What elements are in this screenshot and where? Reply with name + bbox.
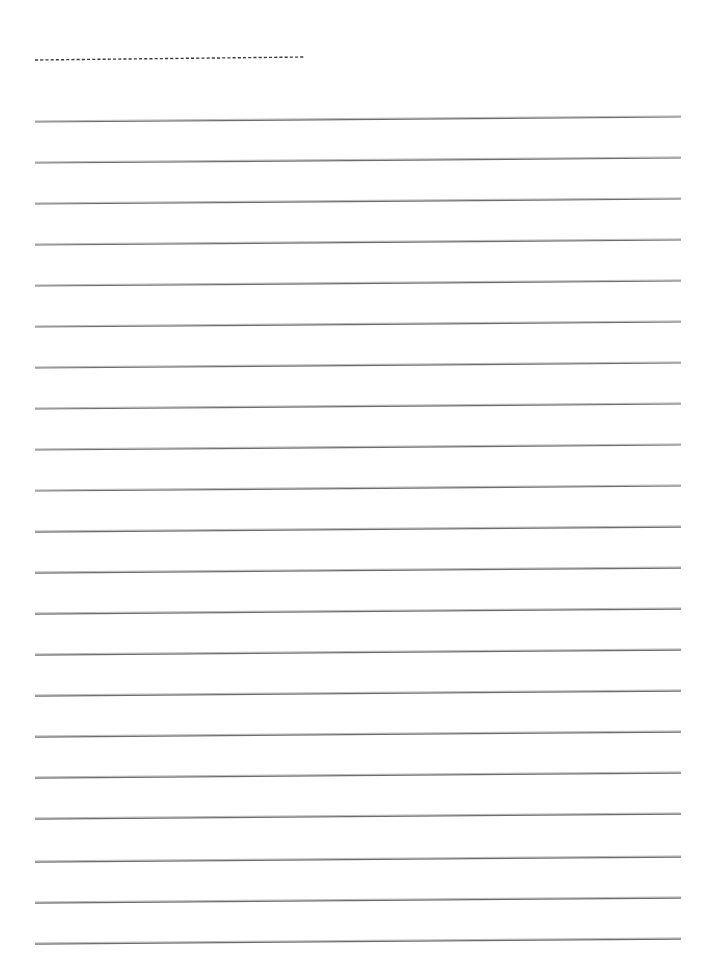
- dashed-header-rule: [35, 57, 305, 60]
- writing-line-15[interactable]: [35, 657, 681, 694]
- writing-line-21[interactable]: [35, 905, 681, 942]
- writing-line-9[interactable]: [35, 411, 681, 448]
- writing-line-1[interactable]: [35, 66, 681, 120]
- writing-line-20[interactable]: [35, 864, 681, 901]
- writing-line-5[interactable]: [35, 247, 681, 284]
- writing-line-7[interactable]: [35, 329, 681, 366]
- writing-line-17[interactable]: [35, 739, 681, 776]
- writing-line-8[interactable]: [35, 370, 681, 407]
- writing-line-2[interactable]: [35, 124, 681, 161]
- writing-line-11[interactable]: [35, 493, 681, 530]
- writing-line-18[interactable]: [35, 780, 681, 817]
- writing-line-6[interactable]: [35, 288, 681, 325]
- dashed-header-rule-line: [35, 57, 305, 60]
- writing-line-10[interactable]: [35, 452, 681, 489]
- worksheet-page: [0, 0, 709, 969]
- writing-line-16[interactable]: [35, 698, 681, 735]
- writing-line-3[interactable]: [35, 165, 681, 202]
- writing-line-14[interactable]: [35, 616, 681, 653]
- writing-line-13[interactable]: [35, 575, 681, 612]
- writing-line-12[interactable]: [35, 534, 681, 571]
- writing-line-4[interactable]: [35, 206, 681, 243]
- writing-line-19[interactable]: [35, 821, 681, 860]
